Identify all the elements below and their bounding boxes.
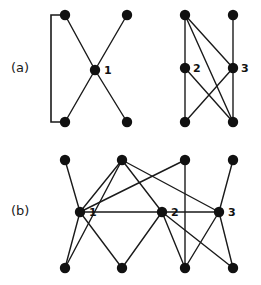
node-layer — [60, 10, 238, 273]
graph-edge — [65, 70, 95, 122]
graph-edge — [185, 15, 233, 68]
panel-label-a: (a) — [11, 60, 29, 75]
graph-edge — [122, 160, 162, 212]
graph-edge — [185, 212, 219, 268]
node-label-2: 2 — [193, 62, 201, 75]
graph-node-2 — [180, 63, 190, 73]
node-label-2: 2 — [171, 206, 179, 219]
graph-edge — [80, 160, 122, 212]
graph-node — [60, 10, 70, 20]
graph-edge — [162, 212, 233, 268]
graph-node — [117, 263, 127, 273]
node-label-3: 3 — [241, 62, 249, 75]
graph-node — [122, 10, 132, 20]
node-label-1: 1 — [104, 64, 112, 77]
graph-node — [60, 263, 70, 273]
graph-node — [228, 263, 238, 273]
graph-diagram-canvas: 123123 — [0, 0, 261, 285]
graph-edge — [122, 212, 162, 268]
graph-node — [228, 10, 238, 20]
graph-node — [60, 117, 70, 127]
graph-edge — [95, 70, 127, 122]
graph-node-2 — [157, 207, 167, 217]
graph-node — [60, 155, 70, 165]
graph-node — [180, 155, 190, 165]
figure-root: 123123 (a) (b) — [0, 0, 261, 285]
graph-edge — [219, 212, 233, 268]
graph-edge — [95, 15, 127, 70]
graph-edge — [65, 212, 80, 268]
graph-edge — [65, 160, 80, 212]
node-label-1: 1 — [89, 206, 97, 219]
graph-node — [228, 117, 238, 127]
graph-node — [228, 155, 238, 165]
edge-layer — [65, 15, 233, 268]
graph-edge — [80, 212, 122, 268]
graph-node-3 — [214, 207, 224, 217]
graph-node — [180, 10, 190, 20]
graph-node-1 — [90, 65, 100, 75]
graph-node — [117, 155, 127, 165]
graph-node-1 — [75, 207, 85, 217]
graph-node — [180, 117, 190, 127]
bracket-layer — [51, 15, 65, 122]
graph-node — [180, 263, 190, 273]
graph-node-3 — [228, 63, 238, 73]
group-bracket — [51, 15, 65, 122]
graph-edge — [65, 15, 95, 70]
graph-node — [122, 117, 132, 127]
panel-label-b: (b) — [11, 203, 29, 218]
node-label-3: 3 — [228, 206, 236, 219]
graph-edge — [219, 160, 233, 212]
